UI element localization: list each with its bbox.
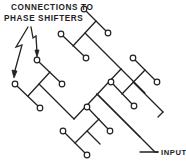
output-port-icon <box>131 103 137 109</box>
feed-cd <box>39 84 74 119</box>
output-port-icon <box>108 79 114 85</box>
feed-network-diagram: CONNECTIONS TO PHASE SHIFTERS INPUT <box>0 0 186 168</box>
feed-ab <box>85 33 121 69</box>
combiner-ab <box>73 21 96 46</box>
output-port-icon <box>83 55 89 61</box>
output-port-icon <box>84 152 90 158</box>
output-port-icon <box>107 128 113 134</box>
output-port-icon <box>12 81 18 87</box>
output-port-icon <box>60 128 66 134</box>
output-port-icon <box>130 55 136 61</box>
feed-ef <box>133 82 163 112</box>
input-label: INPUT <box>161 148 186 157</box>
arrowhead-right-icon <box>35 50 39 57</box>
main-diag <box>121 69 145 93</box>
feed-gh <box>87 131 100 144</box>
input-line <box>97 94 158 152</box>
feed-network-svg <box>0 0 186 168</box>
output-port-icon <box>105 30 111 36</box>
output-port-icon <box>59 81 65 87</box>
connections-label-line1: CONNECTIONS TO <box>11 3 93 12</box>
arrowhead-left-icon <box>12 70 17 78</box>
arrow-to-ports-left <box>14 27 28 74</box>
output-port-icon <box>154 79 160 85</box>
arrow-to-ports-right <box>31 27 37 53</box>
output-port-icon <box>58 31 64 37</box>
combiner-efgh <box>158 112 163 117</box>
output-port-icon <box>37 105 43 111</box>
output-port-icon <box>84 104 90 110</box>
connections-label-line2: PHASE SHIFTERS <box>4 14 83 23</box>
